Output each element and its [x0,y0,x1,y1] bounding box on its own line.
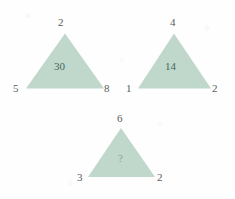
triangle-3-bottom-right-number: 2 [157,172,163,183]
triangle-2-center-number: 14 [165,61,176,72]
triangle-1-bottom-left-number: 5 [13,83,19,94]
triangle-3-center-number: ? [118,153,123,164]
triangle-1-center-number: 30 [54,61,65,72]
puzzle-canvas: 2 30 5 8 4 14 1 2 6 ? 3 2 [0,0,235,199]
triangle-2-apex-number: 4 [170,17,176,28]
triangle-3-group: 6 ? 3 2 [62,105,177,199]
triangle-1-group: 2 30 5 8 [0,0,120,100]
triangle-3-bottom-left-number: 3 [77,172,83,183]
triangle-3-apex-number: 6 [117,113,123,124]
triangle-2-group: 4 14 1 2 [112,0,235,100]
triangle-2-bottom-left-number: 1 [126,83,132,94]
triangle-2-bottom-right-number: 2 [212,83,218,94]
triangle-1-apex-number: 2 [58,17,64,28]
triangle-1-bottom-right-number: 8 [104,83,110,94]
